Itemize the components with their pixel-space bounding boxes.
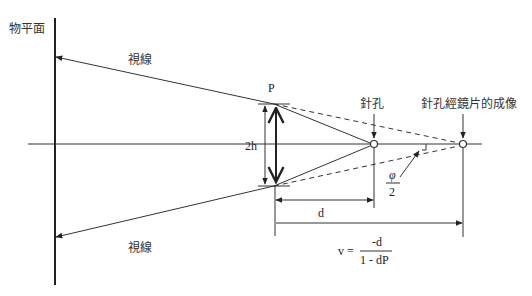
formula-numerator: -d [372,235,382,249]
dashed-ray-lower [274,146,459,186]
aperture-height-label: 2h [245,139,257,153]
formula-lhs: v = [338,244,354,258]
pinhole-marker [371,141,378,148]
distance-d-label: d [318,206,324,220]
object-plane-label: 物平面 [9,22,45,36]
sight-line-lower [56,186,274,237]
pinhole-lens-diagram: 物平面 視線 視線 P 2h 針孔 針孔經鏡片的成像 φ 2 d v = -d … [0,0,532,296]
ray-upper-to-pinhole [274,104,370,143]
lens-power-label: P [268,81,275,95]
formula-denominator: 1 - dP [360,253,389,267]
ray-lower-to-pinhole [274,146,370,186]
sight-line-upper [56,57,274,104]
pinhole-image-marker [460,141,467,148]
sight-line-upper-label: 視線 [128,52,152,67]
sight-line-lower-label: 視線 [128,240,152,255]
angle-marker [422,144,426,150]
angle-denominator: 2 [389,185,395,199]
angle-numerator: φ [389,168,396,182]
angle-pointer [400,151,419,177]
pinhole-label: 針孔 [360,96,384,111]
pinhole-image-label: 針孔經鏡片的成像 [421,96,517,111]
